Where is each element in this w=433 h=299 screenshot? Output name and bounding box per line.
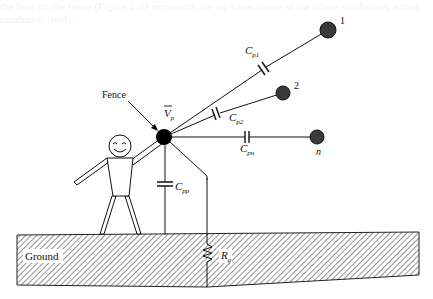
- phase-n-conductor: [310, 130, 324, 144]
- phase-1-label: 1: [340, 15, 345, 26]
- phase-2-conductor: [276, 86, 290, 100]
- person-head: [109, 135, 131, 157]
- phase-1-conductor: [320, 22, 336, 38]
- person-figure: [74, 135, 163, 234]
- phase-2-label: 2: [294, 80, 299, 91]
- cp1-label: Cp1: [245, 44, 259, 59]
- fence-label: Fence: [102, 89, 126, 100]
- phase-2-wire: [164, 93, 283, 137]
- node-to-ground-wire: [170, 142, 207, 180]
- cpp-capacitor: [157, 145, 173, 235]
- ground-region: [17, 232, 419, 287]
- ground-label: Ground: [25, 250, 59, 262]
- cp2-label: Cp2: [229, 111, 244, 126]
- phase-n-label: n: [316, 146, 321, 157]
- cpn-label: Cpn: [240, 142, 255, 157]
- fence-pointer-line: [128, 101, 155, 128]
- fence-node: [156, 129, 172, 145]
- vp-label: Vp: [164, 107, 175, 122]
- fence-capacitance-diagram: Ground Rg Cpp Cp1 1 Cp2 2: [0, 0, 433, 299]
- cpp-label: Cpp: [175, 180, 190, 195]
